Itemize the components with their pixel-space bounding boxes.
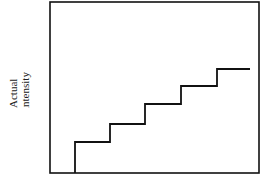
- y-label-line-1: Actual: [7, 79, 19, 108]
- plot-frame: [50, 2, 259, 173]
- step-line: [75, 69, 250, 173]
- y-label-line-2: intensity: [19, 72, 31, 108]
- step-chart: [0, 0, 265, 185]
- y-axis-label: Actual intensity: [3, 58, 39, 108]
